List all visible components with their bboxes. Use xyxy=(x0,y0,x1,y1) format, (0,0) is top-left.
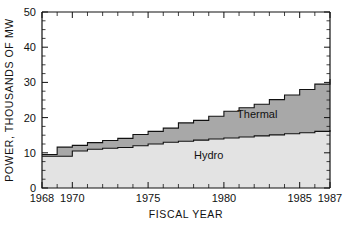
chart-figure: 01020304050196819701975198019851987FISCA… xyxy=(0,0,345,227)
power-stacked-area-chart: 01020304050196819701975198019851987FISCA… xyxy=(0,0,345,227)
y-tick-label: 30 xyxy=(24,76,36,88)
y-tick-label: 50 xyxy=(24,6,36,18)
x-axis-title: FISCAL YEAR xyxy=(149,208,223,220)
x-tick-label: 1980 xyxy=(212,192,236,204)
x-axis-tick-labels: 196819701975198019851987 xyxy=(30,192,342,204)
y-tick-label: 20 xyxy=(24,112,36,124)
y-axis-title: POWER, THOUSANDS OF MW xyxy=(3,18,15,182)
y-axis-tick-labels: 01020304050 xyxy=(24,6,36,194)
x-tick-label: 1970 xyxy=(60,192,84,204)
x-tick-label: 1985 xyxy=(287,192,311,204)
series-label-hydro: Hydro xyxy=(194,149,223,161)
y-tick-label: 10 xyxy=(24,147,36,159)
x-tick-label: 1975 xyxy=(136,192,160,204)
y-tick-label: 40 xyxy=(24,41,36,53)
x-tick-label: 1987 xyxy=(318,192,342,204)
x-tick-label: 1968 xyxy=(30,192,54,204)
series-label-thermal: Thermal xyxy=(237,108,277,120)
